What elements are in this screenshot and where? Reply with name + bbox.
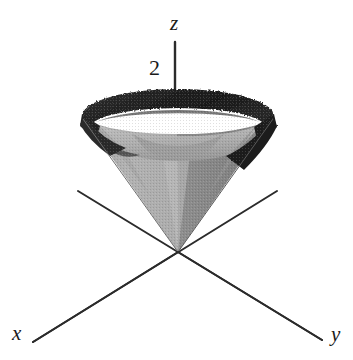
x-axis-label: x (12, 323, 21, 344)
y-axis-label: y (331, 324, 340, 345)
cone-solid (80, 89, 277, 252)
x-axis-front-segment (33, 252, 178, 342)
z-height-tick-label: 2 (149, 57, 160, 79)
y-axis-front-segment (178, 252, 322, 340)
z-axis-label: z (170, 13, 178, 34)
figure-canvas: z 2 x y (0, 0, 353, 360)
axis-lines-front (33, 252, 322, 342)
cone-figure-svg (0, 0, 353, 360)
